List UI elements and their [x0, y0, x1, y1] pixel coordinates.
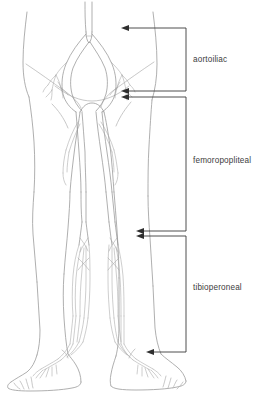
aortoiliac-vessels: [43, 2, 135, 112]
label-tibioperoneal: tibioperoneal: [193, 283, 242, 292]
arrow-head-aortoiliac-top: [121, 25, 129, 31]
arterial-anatomy-diagram: Lower extremity arterial anatomy with va…: [0, 0, 278, 400]
label-femoropopliteal: femoropopliteal: [193, 156, 251, 165]
femoropopliteal-bracket: [121, 94, 186, 234]
arrow-head-tibioperoneal-bottom: [146, 349, 154, 355]
femoropopliteal-vessels: [63, 112, 118, 222]
label-aortoiliac: aortoiliac: [193, 55, 227, 64]
arrow-head-tibioperoneal-top: [136, 233, 144, 239]
aortoiliac-bracket: [121, 25, 186, 94]
tibioperoneal-vessels: [33, 222, 161, 378]
tibioperoneal-bracket: [136, 233, 186, 355]
arrow-head-femoropopliteal-bottom: [136, 228, 144, 234]
arrow-head-femoropopliteal-top: [121, 94, 129, 100]
pelvic-contours: [26, 62, 154, 128]
body-outline: [8, 12, 186, 391]
foot-detail: [14, 349, 183, 389]
